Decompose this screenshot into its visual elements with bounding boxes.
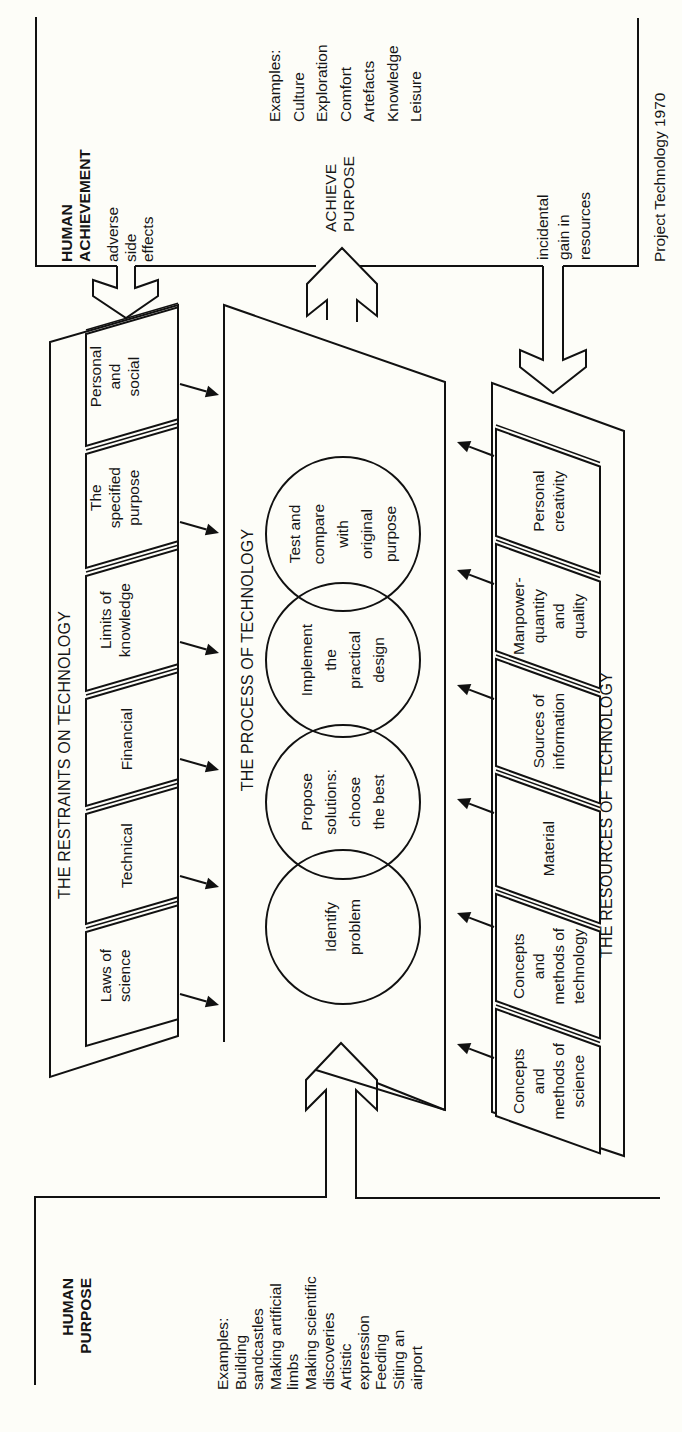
restraint-box: Financial [86,668,178,806]
stage-label-line: problem [346,899,363,955]
stage-circle [266,583,420,737]
arrow-head-icon [457,798,471,809]
arrow-head-icon [205,996,219,1008]
resource-label-line: creativity [550,470,567,531]
arrow-head-icon [457,569,471,580]
stage-label-line: solutions: [322,769,339,834]
example-line: Leisure [407,71,424,122]
restraint-arrow [180,994,219,1007]
incidental-line: incidental [534,195,551,261]
arrow-shaft [469,575,494,584]
example-line: Making artificial [267,1283,284,1390]
stage-circle [266,850,420,1004]
resource-label-line: and [530,1068,547,1094]
restraint-label-line: and [106,364,123,390]
resource-label-line: and [530,953,547,979]
resource-label-line: quality [570,594,587,639]
resource-arrow [457,1043,494,1058]
resource-label-line: science [570,1055,587,1108]
resource-label-line: Concepts [510,933,527,999]
resource-label-line: Concepts [510,1048,527,1114]
example-line: Feeding [372,1334,389,1390]
arrow-shaft [469,690,494,699]
restraint-label-line: Personal [87,346,104,407]
stage-label-line: choose [346,777,363,827]
resource-label-line: Manpower- [510,577,527,655]
incidental-gain-label: incidentalgain inresources [534,192,593,260]
achieve-purpose-label: ACHIEVEPURPOSE [322,156,357,232]
example-line: expression [355,1315,372,1390]
human-achievement-title: HUMANACHIEVEMENT [58,149,93,262]
example-line: Knowledge [384,45,401,122]
credit-label: Project Technology 1970 [651,92,668,262]
process-column: THE PROCESS OF TECHNOLOGY Identifyproble… [224,305,445,1110]
restraint-box: Thespecifiedpurpose [86,423,178,568]
human-achievement-title-line: ACHIEVEMENT [76,149,93,262]
arrow-shaft [180,759,206,766]
process-stage [266,725,420,879]
resource-arrow [457,569,494,584]
restraint-label-line: Limits of [97,591,114,649]
process-frame [224,305,445,1110]
arrow-shaft [469,804,494,813]
example-line: Artefacts [360,61,377,122]
restraint-label-line: Financial [118,708,135,770]
human-achievement-examples: Examples:CultureExplorationComfortArtefa… [266,44,424,122]
resource-arrow [457,912,494,927]
resources-heading: THE RESOURCES OF TECHNOLOGY [598,672,615,958]
resource-label-line: and [550,603,567,629]
stage-circle [266,725,420,879]
example-line: Making scientific [302,1276,319,1390]
stage-label-line: purpose [382,506,399,562]
resource-arrow [457,798,494,813]
stage-label-line: practical [346,631,363,689]
stage-label-line: Identify [322,902,339,952]
restraints-heading: THE RESTRAINTS ON TECHNOLOGY [56,611,73,899]
incidental-gain-arrow [520,266,586,393]
resource-label-line: methods of [550,927,567,1004]
human-achievement-title-line: HUMAN [58,204,75,262]
human-achievement-section: HUMANACHIEVEMENT adversesideeffects ACHI… [36,17,668,266]
restraint-box: Personalandsocial [86,303,178,446]
influence-arrows [180,384,494,1058]
resource-label-line: Sources of [530,693,547,768]
arrow-shaft [469,918,494,927]
stage-label-line: original [358,509,375,559]
resource-label-line: Personal [530,471,547,532]
resource-arrow [457,441,494,456]
stage-label-line: Implement [298,623,315,696]
process-stage [266,850,420,1004]
human-purpose-examples: Examples:BuildingsandcastlesMaking artif… [214,1276,425,1390]
example-line: sandcastles [249,1308,266,1390]
purpose-input-arrow [306,1043,377,1197]
example-line: Examples: [214,1318,231,1390]
restraint-label-line: science [116,949,133,1002]
stage-label-line: design [370,637,387,683]
arrow-shaft [469,447,494,456]
arrow-head-icon [205,524,219,536]
arrow-head-icon [205,761,219,773]
arrow-shaft [180,876,206,883]
adverse-side-effects-label: adversesideeffects [104,207,156,262]
side-effects-line: effects [139,216,156,262]
achieve-purpose-line: ACHIEVE [322,164,339,232]
restraint-label-line: specified [106,467,123,528]
example-line: Building [232,1335,249,1390]
adverse-effects-arrow [93,266,158,318]
arrow-head-icon [457,912,471,923]
example-line: Comfort [337,66,354,122]
restraint-box: Technical [86,783,178,924]
example-line: Examples: [266,50,283,122]
resource-label-line: Material [540,821,557,876]
side-effects-line: side [122,234,139,262]
restraint-arrow [180,876,219,889]
achieve-purpose-line: PURPOSE [340,156,357,232]
example-line: airport [408,1345,425,1390]
restraint-label-line: Technical [118,823,135,888]
arrow-head-icon [205,644,219,656]
stage-label-line: the best [370,774,387,830]
arrow-head-icon [457,1043,471,1054]
stage-label-line: Test and [286,505,303,564]
achieve-purpose-arrow [307,248,377,322]
stage-label-line: Propose [298,773,315,831]
